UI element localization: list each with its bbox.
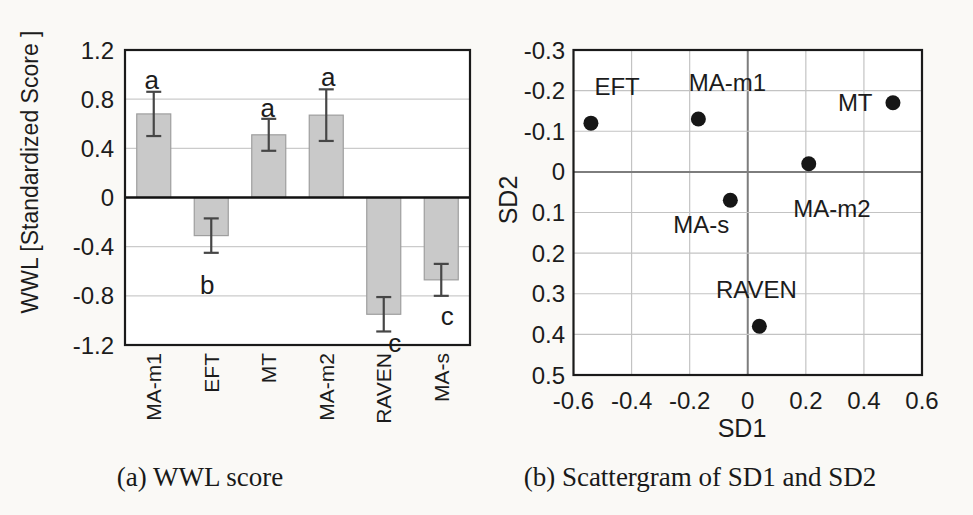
point-label-EFT: EFT bbox=[594, 73, 640, 100]
scatter-point-RAVEN bbox=[752, 319, 767, 334]
x-tick-label: -0.2 bbox=[669, 387, 710, 414]
y-tick-label: 0.4 bbox=[532, 321, 565, 348]
sig-letter: b bbox=[200, 270, 214, 300]
y-tick-label: -0.8 bbox=[73, 282, 114, 309]
x-tick-label: 0 bbox=[741, 387, 754, 414]
point-label-MA-m1: MA-m1 bbox=[689, 69, 766, 96]
x-tick-label: 0.4 bbox=[847, 387, 880, 414]
y-tick-label: 0.4 bbox=[81, 135, 114, 162]
y-tick-label: 0 bbox=[101, 184, 114, 211]
caption-scatter-chart: (b) Scattergram of SD1 and SD2 bbox=[524, 462, 877, 493]
charts-canvas: aMA-m1bEFTaMTaMA-m2cRAVENcMA-s1.20.80.40… bbox=[0, 0, 973, 515]
scatter-point-MA-s bbox=[723, 193, 738, 208]
figure-panel: aMA-m1bEFTaMTaMA-m2cRAVENcMA-s1.20.80.40… bbox=[0, 0, 973, 515]
caption-bar-chart: (a) WWL score bbox=[117, 462, 283, 493]
scatter-point-EFT bbox=[583, 116, 598, 131]
y-tick-label: 0 bbox=[552, 158, 565, 185]
x-tick-label: -0.4 bbox=[611, 387, 652, 414]
point-label-MT: MT bbox=[838, 89, 873, 116]
y-tick-label: 0.5 bbox=[532, 362, 565, 389]
bar-chart-y-axis-title: WWL [Standardized Score ] bbox=[17, 31, 44, 314]
y-tick-label: -0.2 bbox=[524, 77, 565, 104]
scatter-point-MA-m1 bbox=[691, 112, 706, 127]
x-tick-label: 0.6 bbox=[905, 387, 938, 414]
point-label-MA-s: MA-s bbox=[673, 211, 729, 238]
y-tick-label: 0.2 bbox=[532, 240, 565, 267]
x-tick-label: -0.6 bbox=[553, 387, 594, 414]
category-label: MA-m1 bbox=[142, 353, 165, 421]
scatter-x-axis-title: SD1 bbox=[718, 414, 767, 443]
category-label: MA-s bbox=[430, 353, 453, 402]
sig-letter: a bbox=[321, 62, 336, 92]
scatter-y-axis-title: SD2 bbox=[494, 176, 523, 225]
x-tick-label: 0.2 bbox=[789, 387, 822, 414]
y-tick-label: 0.3 bbox=[532, 280, 565, 307]
point-label-MA-m2: MA-m2 bbox=[793, 195, 870, 222]
category-label: MT bbox=[257, 353, 280, 383]
sig-letter: a bbox=[145, 65, 160, 95]
y-tick-label: -0.1 bbox=[524, 118, 565, 145]
sig-letter: a bbox=[261, 93, 276, 123]
category-label: MA-m2 bbox=[315, 353, 338, 421]
scatter-point-MA-m2 bbox=[801, 156, 816, 171]
y-tick-label: 1.2 bbox=[81, 37, 114, 64]
y-tick-label: 0.8 bbox=[81, 86, 114, 113]
sig-letter: c bbox=[441, 301, 454, 331]
category-label: EFT bbox=[200, 353, 223, 393]
category-label: RAVEN bbox=[372, 353, 395, 424]
y-tick-label: -0.3 bbox=[524, 37, 565, 64]
y-tick-label: 0.1 bbox=[532, 199, 565, 226]
y-tick-label: -1.2 bbox=[73, 332, 114, 359]
point-label-RAVEN: RAVEN bbox=[716, 276, 797, 303]
y-tick-label: -0.4 bbox=[73, 233, 114, 260]
scatter-point-MT bbox=[885, 95, 900, 110]
